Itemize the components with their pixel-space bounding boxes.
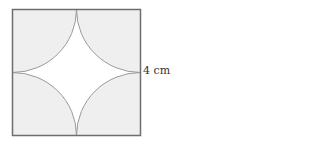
side-length-label: 4 cm: [143, 64, 170, 77]
